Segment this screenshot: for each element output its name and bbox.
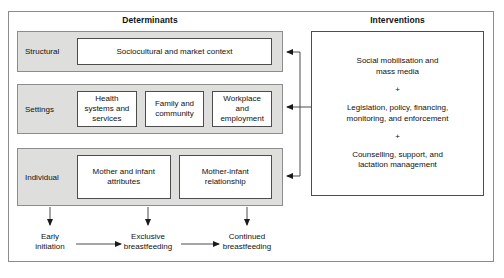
- determinant-row-boxes-settings: Health systems and services Family and c…: [77, 85, 282, 133]
- determinant-row-label-structural: Structural: [18, 47, 77, 56]
- determinant-row-individual: Individual Mother and infant attributes …: [17, 148, 283, 206]
- determinant-box-mother-infant-relationship: Mother-infant relationship: [179, 155, 273, 199]
- intervention-social-mobilisation-mass-media: Social mobilisation and mass media: [357, 56, 439, 77]
- intervention-counselling-support-lactation: Counselling, support, and lactation mana…: [352, 150, 443, 171]
- determinant-box-family-and-community: Family and community: [145, 91, 205, 127]
- interventions-panel: Social mobilisation and mass media + Leg…: [311, 31, 484, 196]
- determinant-row-boxes-individual: Mother and infant attributes Mother-infa…: [77, 149, 282, 205]
- determinant-row-structural: Structural Sociocultural and market cont…: [17, 31, 283, 72]
- interventions-column-heading: Interventions: [311, 15, 484, 25]
- determinant-row-label-settings: Settings: [18, 105, 77, 114]
- determinant-box-sociocultural-market-context: Sociocultural and market context: [77, 38, 272, 65]
- intervention-plus-separator-2: +: [395, 133, 400, 141]
- determinant-box-workplace-and-employment: Workplace and employment: [212, 91, 272, 127]
- determinants-column-heading: Determinants: [17, 15, 283, 25]
- intervention-plus-separator-1: +: [395, 86, 400, 94]
- determinant-row-settings: Settings Health systems and services Fam…: [17, 84, 283, 134]
- outcome-early-initiation: Early initiation: [13, 232, 87, 252]
- intervention-legislation-policy-financing: Legislation, policy, financing, monitori…: [347, 103, 449, 124]
- determinant-row-label-individual: Individual: [18, 173, 77, 182]
- determinant-box-mother-and-infant-attributes: Mother and infant attributes: [77, 155, 171, 199]
- outcome-continued-breastfeeding: Continued breastfeeding: [210, 232, 284, 252]
- determinant-row-boxes-structural: Sociocultural and market context: [77, 32, 282, 71]
- breastfeeding-framework-figure: Determinants Interventions Structural So…: [0, 0, 504, 278]
- determinant-box-health-systems-and-services: Health systems and services: [77, 91, 137, 127]
- outcome-exclusive-breastfeeding: Exclusive breastfeeding: [111, 232, 185, 252]
